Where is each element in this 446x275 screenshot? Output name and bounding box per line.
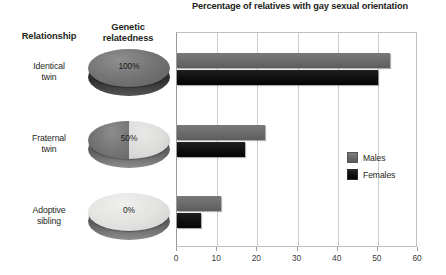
column-header-relationship: Relationship (14, 31, 84, 41)
legend-swatch-males-icon (347, 152, 358, 163)
bar-fraternal-twin-females (177, 142, 245, 157)
row-label-adoptive-sibling-line2: sibling (12, 216, 86, 227)
column-header-genetic-relatedness-line1: Genetic (89, 22, 167, 33)
relatedness-disc-identical-twin: 100% (88, 49, 170, 101)
legend-item-males: Males (347, 150, 395, 165)
row-label-adoptive-sibling: Adoptive sibling (12, 205, 86, 226)
x-axis-tick-label: 40 (324, 253, 350, 263)
x-axis-tick-label: 10 (203, 253, 229, 263)
bar-identical-twin-females (177, 70, 378, 85)
row-label-identical-twin-line2: twin (12, 72, 86, 83)
legend-swatch-females-icon (347, 169, 358, 180)
x-axis-tick-label: 20 (243, 253, 269, 263)
x-axis-tick (176, 247, 177, 251)
row-label-fraternal-twin: Fraternal twin (12, 133, 86, 154)
relatedness-disc-fraternal-twin: 50% (88, 121, 170, 173)
x-axis-tick-label: 60 (404, 253, 430, 263)
x-axis-tick (377, 247, 378, 251)
x-axis-tick-label: 30 (284, 253, 310, 263)
row-label-fraternal-twin-line2: twin (12, 144, 86, 155)
relatedness-value-identical-twin: 100% (88, 61, 170, 71)
row-label-adoptive-sibling-line1: Adoptive (12, 205, 86, 216)
bar-adoptive-sibling-males (177, 196, 221, 211)
chart-title: Percentage of relatives with gay sexual … (176, 1, 424, 11)
x-axis-tick-label: 0 (163, 253, 189, 263)
row-label-identical-twin: Identical twin (12, 61, 86, 82)
column-header-genetic-relatedness: Genetic relatedness (89, 22, 167, 44)
x-axis-tick (417, 247, 418, 251)
row-label-identical-twin-line1: Identical (12, 61, 86, 72)
x-axis-tick-label: 50 (364, 253, 390, 263)
relatedness-disc-adoptive-sibling: 0% (88, 193, 170, 245)
column-header-genetic-relatedness-line2: relatedness (89, 33, 167, 44)
bar-identical-twin-males (177, 53, 390, 68)
x-axis-tick (216, 247, 217, 251)
bar-adoptive-sibling-females (177, 213, 201, 228)
legend-label-females: Females (363, 170, 395, 180)
x-axis-tick (297, 247, 298, 251)
chart-legend: Males Females (347, 150, 395, 184)
row-label-fraternal-twin-line1: Fraternal (12, 133, 86, 144)
legend-item-females: Females (347, 167, 395, 182)
bar-chart-plot-area (176, 32, 417, 247)
relatedness-value-fraternal-twin: 50% (88, 133, 170, 143)
x-axis-tick (256, 247, 257, 251)
relatedness-value-adoptive-sibling: 0% (88, 205, 170, 215)
x-axis-tick (337, 247, 338, 251)
legend-label-males: Males (363, 153, 385, 163)
bar-fraternal-twin-males (177, 125, 265, 140)
